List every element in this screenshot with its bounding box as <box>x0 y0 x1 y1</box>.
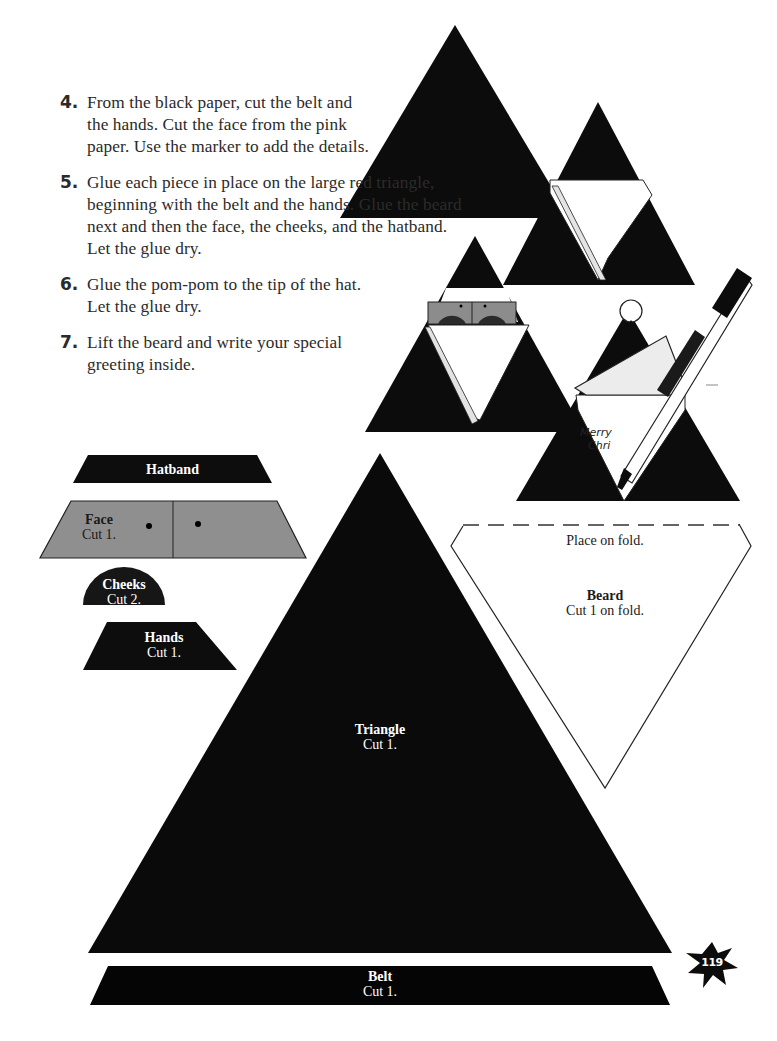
beard-label: Beard Cut 1 on fold. <box>530 588 680 618</box>
beard-cut: Cut 1 on fold. <box>530 603 680 618</box>
hands-cut: Cut 1. <box>120 645 208 660</box>
cheeks-title: Cheeks <box>84 577 164 592</box>
page-number: 119 <box>697 956 727 969</box>
step-text: Glue each piece in place on the large re… <box>87 172 467 260</box>
step-text: Lift the beard and write your special gr… <box>87 332 377 376</box>
step-7: 7. Lift the beard and write your special… <box>60 332 377 376</box>
face-title: Face <box>70 512 128 527</box>
triangle-cut: Cut 1. <box>330 737 430 752</box>
step-number: 6. <box>60 274 78 294</box>
step-6: 6. Glue the pom-pom to the tip of the ha… <box>60 274 377 318</box>
cheeks-cut: Cut 2. <box>84 592 164 607</box>
hands-title: Hands <box>120 630 208 645</box>
hands-label: Hands Cut 1. <box>120 630 208 660</box>
cheeks-label: Cheeks Cut 2. <box>84 577 164 607</box>
triangle-title: Triangle <box>330 722 430 737</box>
card-greeting-line1: Merry <box>580 426 612 439</box>
step-number: 5. <box>60 172 78 192</box>
step-4: 4. From the black paper, cut the belt an… <box>60 92 377 158</box>
triangle-label: Triangle Cut 1. <box>330 722 430 752</box>
belt-label: Belt Cut 1. <box>330 969 430 999</box>
step-number: 4. <box>60 92 78 112</box>
beard-fold-text: Place on fold. <box>530 533 680 548</box>
step-number: 7. <box>60 332 78 352</box>
beard-title: Beard <box>530 588 680 603</box>
beard-fold-note: Place on fold. <box>530 533 680 548</box>
card-greeting-line2: Chri <box>580 439 612 452</box>
belt-title: Belt <box>330 969 430 984</box>
step-text: From the black paper, cut the belt and t… <box>87 92 377 158</box>
instruction-steps: 4. From the black paper, cut the belt an… <box>60 92 460 376</box>
belt-cut: Cut 1. <box>330 984 430 999</box>
face-cut: Cut 1. <box>70 527 128 542</box>
step-5: 5. Glue each piece in place on the large… <box>60 172 467 260</box>
craft-page: Merry Chri 4. From the black paper, cut … <box>0 0 777 1041</box>
hatband-title: Hatband <box>88 462 257 477</box>
step-text: Glue the pom-pom to the tip of the hat. … <box>87 274 377 318</box>
card-greeting: Merry Chri <box>580 426 612 452</box>
hatband-label: Hatband <box>88 462 257 477</box>
face-label: Face Cut 1. <box>70 512 128 542</box>
